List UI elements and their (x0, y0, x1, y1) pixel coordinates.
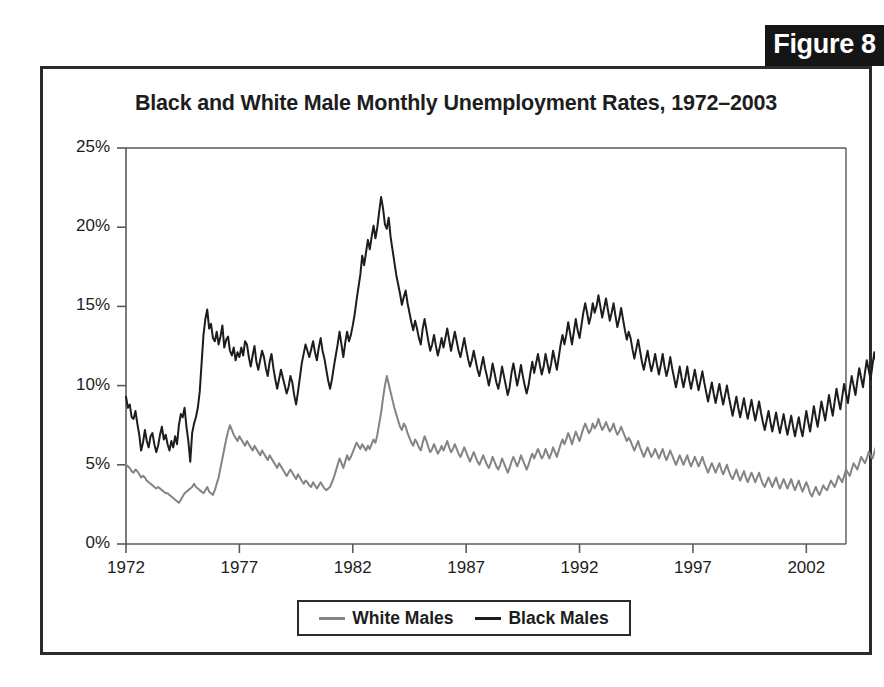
x-tick-label: 1997 (648, 558, 738, 578)
x-tick-label: 1972 (81, 558, 171, 578)
legend-item-white-males: White Males (319, 608, 453, 629)
legend-swatch-white-males (319, 617, 345, 620)
x-tick-label: 1982 (308, 558, 398, 578)
chart-legend: White Males Black Males (297, 600, 631, 636)
chart-plot-area: 0%5%10%15%20%25%197219771982198719921997… (43, 69, 875, 658)
legend-label-black-males: Black Males (508, 608, 608, 629)
legend-label-white-males: White Males (352, 608, 453, 629)
y-tick-label: 15% (43, 295, 110, 315)
x-tick-label: 1992 (535, 558, 625, 578)
axis-group (117, 148, 846, 553)
y-tick-label: 5% (43, 454, 110, 474)
figure-badge-label: Figure 8 (773, 29, 876, 60)
x-tick-label: 2002 (761, 558, 851, 578)
x-tick-label: 1987 (421, 558, 511, 578)
series-line-black-males (126, 197, 875, 462)
y-tick-label: 20% (43, 216, 110, 236)
x-tick-label: 1977 (194, 558, 284, 578)
y-tick-label: 25% (43, 137, 110, 157)
figure-frame: Black and White Male Monthly Unemploymen… (40, 66, 872, 655)
y-tick-label: 10% (43, 375, 110, 395)
legend-item-black-males: Black Males (475, 608, 608, 629)
series-group (126, 197, 875, 503)
series-line-white-males (126, 376, 875, 503)
legend-swatch-black-males (475, 617, 501, 620)
y-tick-label: 0% (43, 533, 110, 553)
figure-badge: Figure 8 (765, 25, 884, 66)
